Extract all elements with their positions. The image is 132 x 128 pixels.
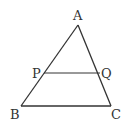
label-q: Q	[101, 66, 112, 81]
triangle-diagram: A B C P Q	[0, 0, 132, 128]
label-p: P	[32, 66, 41, 81]
label-c: C	[111, 107, 121, 122]
label-b: B	[10, 107, 20, 122]
label-a: A	[72, 8, 83, 23]
segment-ab	[21, 25, 78, 106]
